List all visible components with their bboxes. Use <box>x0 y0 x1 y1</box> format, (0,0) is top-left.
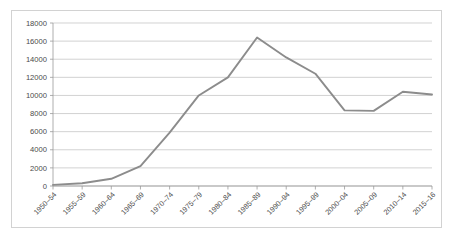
y-tick-label: 4000 <box>30 145 47 154</box>
x-tick-mark-group <box>53 186 432 190</box>
y-tick-mark-group <box>50 23 53 186</box>
y-tick-label: 2000 <box>30 164 47 173</box>
line-chart: 0200040006000800010000120001400016000180… <box>12 11 441 227</box>
y-axis-tick-labels: 0200040006000800010000120001400016000180… <box>26 19 47 191</box>
x-tick-label: 1965–69 <box>119 190 146 217</box>
y-tick-label: 12000 <box>26 73 47 82</box>
x-tick-label: 1960–64 <box>90 190 117 217</box>
x-tick-label: 2000–04 <box>323 190 350 217</box>
x-tick-label: 2015–16 <box>411 190 438 217</box>
x-tick-label: 1985–89 <box>236 190 263 217</box>
y-tick-label: 18000 <box>26 19 47 28</box>
y-tick-label: 0 <box>43 182 47 191</box>
data-series-group <box>53 37 432 184</box>
x-tick-label: 1990–94 <box>265 190 292 217</box>
x-tick-label: 1980–84 <box>207 190 234 217</box>
x-axis-tick-labels: 1950–541955–591960–641965–691970–741975–… <box>32 190 438 217</box>
y-tick-label: 8000 <box>30 109 47 118</box>
series-line <box>53 37 432 184</box>
x-tick-label: 1955–59 <box>61 190 88 217</box>
x-tick-label: 2005–09 <box>352 190 379 217</box>
x-tick-label: 1970–74 <box>148 190 175 217</box>
y-tick-label: 14000 <box>26 55 47 64</box>
chart-container: 0200040006000800010000120001400016000180… <box>11 10 442 228</box>
x-tick-label: 1950–54 <box>32 190 59 217</box>
y-tick-label: 10000 <box>26 91 47 100</box>
y-tick-label: 16000 <box>26 37 47 46</box>
y-tick-label: 6000 <box>30 127 47 136</box>
gridline-group <box>53 23 432 186</box>
x-tick-label: 1995–99 <box>294 190 321 217</box>
x-tick-label: 1975–79 <box>177 190 204 217</box>
x-tick-label: 2010–14 <box>382 190 409 217</box>
